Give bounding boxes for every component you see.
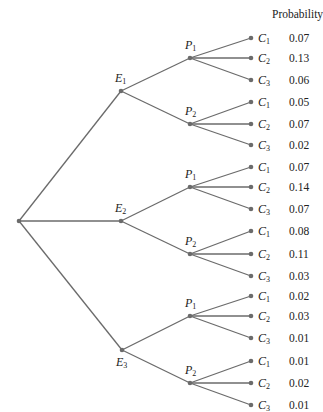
- probability-value: 0.07: [289, 32, 309, 44]
- probability-value: 0.05: [289, 96, 309, 108]
- probability-value: 0.01: [289, 332, 309, 344]
- probability-value: 0.11: [289, 248, 309, 260]
- branch-line-p2-to-c3: [190, 124, 251, 145]
- branch-line-e3-to-p2: [122, 350, 190, 383]
- leaf-node-c3: [249, 143, 254, 148]
- leaf-label-c2: C2: [258, 52, 270, 68]
- leaf-node-c2: [249, 252, 254, 257]
- leaf-node-c2: [249, 314, 254, 319]
- branch-label-p1: P1: [185, 168, 196, 184]
- event-node-e1: [119, 89, 124, 94]
- probability-value: 0.03: [289, 310, 309, 322]
- leaf-node-c1: [249, 359, 254, 364]
- branch-label-p2: P2: [185, 235, 196, 251]
- probability-value: 0.02: [289, 139, 309, 151]
- branch-line-p1-to-c1: [190, 167, 251, 187]
- leaf-node-c2: [249, 381, 254, 386]
- tree-lines: [0, 0, 323, 412]
- event-node-e3: [120, 348, 125, 353]
- branch-node-p1: [188, 185, 193, 190]
- event-label-e3: E3: [116, 356, 127, 372]
- leaf-node-c1: [249, 294, 254, 299]
- probability-value: 0.14: [289, 181, 309, 193]
- branch-line-e1-to-p2: [121, 91, 190, 124]
- branch-line-e3-to-p1: [122, 316, 190, 350]
- probability-value: 0.07: [289, 161, 309, 173]
- branch-line-p2-to-c1: [190, 102, 251, 124]
- branch-label-p1: P1: [185, 297, 196, 313]
- leaf-node-c1: [249, 100, 254, 105]
- leaf-node-c2: [249, 122, 254, 127]
- branch-line-p1-to-c1: [190, 38, 251, 58]
- branch-line-p2-to-c3: [190, 254, 251, 276]
- branch-line-e2-to-p2: [121, 221, 190, 254]
- probability-value: 0.02: [289, 290, 309, 302]
- branch-line-root-to-e3: [19, 221, 122, 350]
- probability-value: 0.01: [289, 355, 309, 367]
- branch-line-e1-to-p1: [121, 58, 190, 91]
- leaf-label-c1: C1: [258, 161, 270, 177]
- leaf-label-c3: C3: [258, 332, 270, 348]
- leaf-label-c1: C1: [258, 355, 270, 371]
- branch-node-p2: [188, 122, 193, 127]
- branch-line-p2-to-c1: [190, 361, 251, 383]
- branch-node-p1: [188, 314, 193, 319]
- leaf-node-c1: [249, 165, 254, 170]
- leaf-label-c2: C2: [258, 310, 270, 326]
- event-label-e2: E2: [115, 202, 126, 218]
- leaf-label-c3: C3: [258, 399, 270, 412]
- probability-value: 0.07: [289, 203, 309, 215]
- branch-label-p1: P1: [185, 39, 196, 55]
- leaf-label-c1: C1: [258, 32, 270, 48]
- leaf-node-c1: [249, 36, 254, 41]
- branch-line-p1-to-c3: [190, 187, 251, 209]
- leaf-label-c3: C3: [258, 74, 270, 90]
- leaf-label-c2: C2: [258, 181, 270, 197]
- leaf-label-c3: C3: [258, 270, 270, 286]
- branch-line-root-to-e1: [19, 91, 121, 221]
- leaf-label-c1: C1: [258, 96, 270, 112]
- leaf-node-c3: [249, 78, 254, 83]
- leaf-node-c3: [249, 274, 254, 279]
- event-node-e2: [119, 219, 124, 224]
- branch-label-p2: P2: [185, 364, 196, 380]
- probability-column-header: Probability: [272, 8, 323, 20]
- leaf-node-c1: [249, 229, 254, 234]
- branch-line-p2-to-c1: [190, 231, 251, 254]
- event-label-e1: E1: [115, 72, 126, 88]
- branch-line-p1-to-c1: [190, 296, 251, 316]
- branch-line-e2-to-p1: [121, 187, 190, 221]
- probability-value: 0.06: [289, 74, 309, 86]
- leaf-label-c1: C1: [258, 290, 270, 306]
- probability-value: 0.01: [289, 399, 309, 411]
- leaf-label-c3: C3: [258, 139, 270, 155]
- leaf-node-c3: [249, 336, 254, 341]
- branch-node-p1: [188, 56, 193, 61]
- probability-value: 0.13: [289, 52, 309, 64]
- probability-value: 0.02: [289, 377, 309, 389]
- branch-line-p2-to-c3: [190, 383, 251, 405]
- branch-node-p2: [188, 381, 193, 386]
- leaf-label-c2: C2: [258, 248, 270, 264]
- probability-value: 0.03: [289, 270, 309, 282]
- leaf-label-c2: C2: [258, 118, 270, 134]
- leaf-node-c3: [249, 403, 254, 408]
- branch-line-p1-to-c3: [190, 58, 251, 80]
- leaf-node-c3: [249, 207, 254, 212]
- root-node: [17, 219, 22, 224]
- leaf-label-c1: C1: [258, 225, 270, 241]
- branch-label-p2: P2: [185, 105, 196, 121]
- leaf-label-c3: C3: [258, 203, 270, 219]
- leaf-label-c2: C2: [258, 377, 270, 393]
- leaf-node-c2: [249, 56, 254, 61]
- leaf-node-c2: [249, 185, 254, 190]
- branch-line-p1-to-c3: [190, 316, 251, 338]
- probability-value: 0.07: [289, 118, 309, 130]
- probability-value: 0.08: [289, 225, 309, 237]
- branch-node-p2: [188, 252, 193, 257]
